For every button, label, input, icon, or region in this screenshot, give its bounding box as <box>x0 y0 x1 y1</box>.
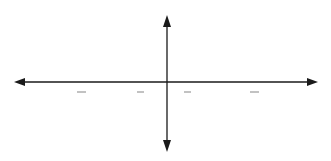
y-axis <box>163 15 171 152</box>
y-axis-down-arrow-icon <box>163 140 171 152</box>
x-axis-left-arrow-icon <box>14 78 25 86</box>
x-axis-right-arrow-icon <box>307 78 318 86</box>
x-axis <box>14 78 318 86</box>
y-axis-up-arrow-icon <box>163 15 171 27</box>
cosine-graph <box>0 0 331 161</box>
